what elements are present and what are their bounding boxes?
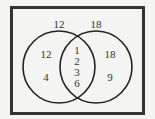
right-set-title: 18 <box>91 18 103 30</box>
intersection-element-4: 6 <box>74 77 80 89</box>
right-element-1: 18 <box>105 48 117 60</box>
left-element-1: 12 <box>41 48 52 60</box>
left-set-title: 12 <box>54 18 65 30</box>
left-element-2: 4 <box>43 71 49 83</box>
venn-diagram: 12 18 12 4 18 9 1 2 3 6 <box>0 0 155 119</box>
right-element-2: 9 <box>107 71 113 83</box>
